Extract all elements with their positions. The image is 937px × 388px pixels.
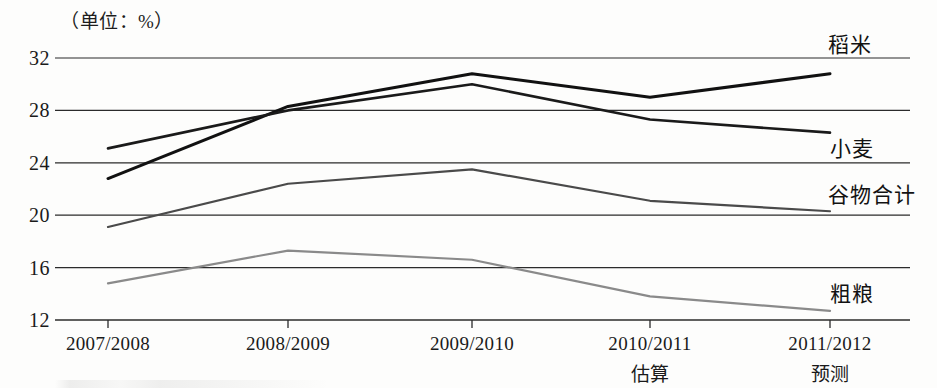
scan-artifact bbox=[0, 380, 937, 388]
series-label-grain-total: 谷物合计 bbox=[828, 178, 916, 208]
series-line-grain-total bbox=[108, 169, 830, 227]
series-label-rice: 稻米 bbox=[828, 28, 872, 58]
series-line-wheat bbox=[108, 84, 830, 148]
gridlines bbox=[55, 58, 910, 320]
plot-area bbox=[0, 0, 937, 388]
series-lines bbox=[108, 74, 830, 311]
x-axis-ticks bbox=[108, 320, 830, 328]
series-label-wheat: 小麦 bbox=[830, 132, 874, 162]
series-label-coarse-grain: 粗粮 bbox=[830, 277, 874, 307]
series-line-coarse-grain bbox=[108, 251, 830, 311]
line-chart: （单位：%） 322824201612 2007/20082008/200920… bbox=[0, 0, 937, 388]
